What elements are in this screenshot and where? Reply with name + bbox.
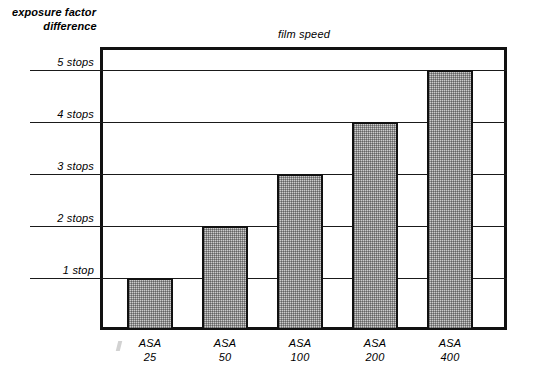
x-tick-label-value: 50 <box>185 350 265 364</box>
x-tick-label-value: 100 <box>260 350 340 364</box>
y-tick-label: 4 stops <box>30 108 94 120</box>
x-tick-label-name: ASA <box>185 336 265 350</box>
x-tick-label-value: 200 <box>335 350 415 364</box>
x-tick-label-name: ASA <box>335 336 415 350</box>
bar-asa-100 <box>277 174 323 330</box>
x-tick-label-name: ASA <box>260 336 340 350</box>
x-tick-label: ASA50 <box>185 336 265 364</box>
bar-asa-25 <box>127 278 173 330</box>
y-tick-label: 1 stop <box>30 264 94 276</box>
x-tick-label-value: 400 <box>410 350 490 364</box>
x-tick-label: ASA200 <box>335 336 415 364</box>
y-axis-caption-line1: exposure factor <box>8 5 132 19</box>
chart-title: film speed <box>100 28 508 40</box>
x-tick-label-name: ASA <box>110 336 190 350</box>
bar-asa-400 <box>427 70 473 330</box>
y-tick-label: 3 stops <box>30 160 94 172</box>
y-tick-label: 5 stops <box>30 56 94 68</box>
x-tick-label-value: 25 <box>110 350 190 364</box>
x-tick-label: ASA100 <box>260 336 340 364</box>
film-speed-bar-chart: exposure factor difference film speed 5 … <box>0 0 538 380</box>
bar-asa-200 <box>352 122 398 330</box>
x-tick-label-name: ASA <box>410 336 490 350</box>
y-tick-label: 2 stops <box>30 212 94 224</box>
x-tick-label: ASA400 <box>410 336 490 364</box>
bar-asa-50 <box>202 226 248 330</box>
